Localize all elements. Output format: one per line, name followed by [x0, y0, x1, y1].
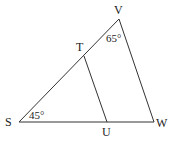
angle-label-s: 45° — [29, 109, 44, 121]
label-v: V — [114, 3, 123, 17]
label-t: T — [76, 40, 84, 54]
segment-tu — [84, 56, 107, 122]
label-u: U — [102, 125, 111, 139]
segment-vw — [119, 19, 154, 122]
angle-label-v: 65° — [106, 32, 121, 44]
triangle-diagram: V T S U W 65° 45° — [0, 0, 172, 144]
label-w: W — [156, 116, 168, 130]
segment-sv — [19, 19, 119, 122]
label-s: S — [5, 115, 12, 129]
